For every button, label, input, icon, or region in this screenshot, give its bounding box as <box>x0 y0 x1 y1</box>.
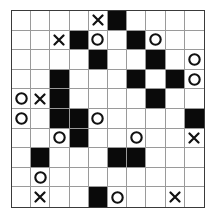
empty-cell[interactable] <box>89 168 108 188</box>
circle-cell <box>89 31 108 51</box>
cross-cell <box>185 129 204 149</box>
circle-icon <box>15 92 28 105</box>
empty-cell[interactable] <box>89 70 108 90</box>
empty-cell[interactable] <box>166 109 185 129</box>
empty-cell[interactable] <box>166 11 185 31</box>
black-cell <box>127 31 146 51</box>
empty-cell[interactable] <box>12 50 31 70</box>
black-cell <box>70 31 89 51</box>
empty-cell[interactable] <box>31 129 50 149</box>
empty-cell[interactable] <box>185 11 204 31</box>
circle-cell <box>108 187 127 207</box>
empty-cell[interactable] <box>70 70 89 90</box>
black-cell <box>50 109 69 129</box>
empty-cell[interactable] <box>12 129 31 149</box>
empty-cell[interactable] <box>12 70 31 90</box>
empty-cell[interactable] <box>12 187 31 207</box>
empty-cell[interactable] <box>127 11 146 31</box>
circle-cell <box>50 129 69 149</box>
empty-cell[interactable] <box>146 148 165 168</box>
empty-cell[interactable] <box>31 50 50 70</box>
empty-cell[interactable] <box>127 89 146 109</box>
empty-cell[interactable] <box>166 50 185 70</box>
circle-icon <box>53 131 66 144</box>
black-cell <box>50 89 69 109</box>
empty-cell[interactable] <box>12 11 31 31</box>
cross-icon <box>53 34 65 46</box>
empty-cell[interactable] <box>108 89 127 109</box>
empty-cell[interactable] <box>108 31 127 51</box>
black-cell <box>70 109 89 129</box>
black-cell <box>70 129 89 149</box>
empty-cell[interactable] <box>89 89 108 109</box>
circle-icon <box>15 112 28 125</box>
empty-cell[interactable] <box>166 168 185 188</box>
circle-cell <box>127 129 146 149</box>
empty-cell[interactable] <box>31 70 50 90</box>
black-cell <box>127 148 146 168</box>
empty-cell[interactable] <box>146 70 165 90</box>
black-cell <box>50 70 69 90</box>
empty-cell[interactable] <box>108 129 127 149</box>
empty-cell[interactable] <box>108 109 127 129</box>
empty-cell[interactable] <box>31 11 50 31</box>
empty-cell[interactable] <box>70 89 89 109</box>
circle-icon <box>188 73 201 86</box>
empty-cell[interactable] <box>12 148 31 168</box>
empty-cell[interactable] <box>146 168 165 188</box>
empty-cell[interactable] <box>50 148 69 168</box>
black-cell <box>31 148 50 168</box>
empty-cell[interactable] <box>108 50 127 70</box>
empty-cell[interactable] <box>70 11 89 31</box>
empty-cell[interactable] <box>127 168 146 188</box>
black-cell <box>166 70 185 90</box>
empty-cell[interactable] <box>146 187 165 207</box>
black-cell <box>89 50 108 70</box>
empty-cell[interactable] <box>146 11 165 31</box>
cross-cell <box>50 31 69 51</box>
empty-cell[interactable] <box>70 50 89 70</box>
empty-cell[interactable] <box>185 148 204 168</box>
empty-cell[interactable] <box>50 11 69 31</box>
empty-cell[interactable] <box>12 168 31 188</box>
empty-cell[interactable] <box>89 129 108 149</box>
empty-cell[interactable] <box>50 168 69 188</box>
empty-cell[interactable] <box>50 187 69 207</box>
circle-cell <box>146 31 165 51</box>
black-cell <box>89 187 108 207</box>
empty-cell[interactable] <box>108 70 127 90</box>
empty-cell[interactable] <box>70 148 89 168</box>
cross-icon <box>34 93 46 105</box>
empty-cell[interactable] <box>146 109 165 129</box>
empty-cell[interactable] <box>185 168 204 188</box>
cross-icon <box>34 191 46 203</box>
empty-cell[interactable] <box>89 148 108 168</box>
empty-cell[interactable] <box>31 109 50 129</box>
circle-icon <box>91 33 104 46</box>
empty-cell[interactable] <box>185 31 204 51</box>
empty-cell[interactable] <box>127 187 146 207</box>
circle-cell <box>185 70 204 90</box>
empty-cell[interactable] <box>166 31 185 51</box>
empty-cell[interactable] <box>70 187 89 207</box>
empty-cell[interactable] <box>12 31 31 51</box>
empty-cell[interactable] <box>127 50 146 70</box>
cross-cell <box>166 187 185 207</box>
empty-cell[interactable] <box>50 50 69 70</box>
empty-cell[interactable] <box>185 187 204 207</box>
black-cell <box>146 89 165 109</box>
empty-cell[interactable] <box>70 168 89 188</box>
black-cell <box>146 50 165 70</box>
empty-cell[interactable] <box>31 31 50 51</box>
circle-cell <box>12 89 31 109</box>
puzzle-grid <box>11 10 205 208</box>
empty-cell[interactable] <box>185 89 204 109</box>
black-cell <box>108 148 127 168</box>
empty-cell[interactable] <box>146 129 165 149</box>
empty-cell[interactable] <box>166 148 185 168</box>
black-cell <box>127 70 146 90</box>
empty-cell[interactable] <box>166 129 185 149</box>
empty-cell[interactable] <box>166 89 185 109</box>
empty-cell[interactable] <box>108 168 127 188</box>
empty-cell[interactable] <box>127 109 146 129</box>
